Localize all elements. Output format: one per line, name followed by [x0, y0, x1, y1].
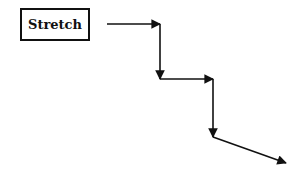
staircase-arrow-path — [0, 0, 301, 173]
arrow-segment-5 — [213, 137, 286, 163]
